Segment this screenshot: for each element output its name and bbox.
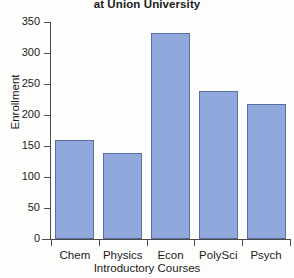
bar-polysci bbox=[199, 91, 238, 239]
chart-title: at Union University bbox=[0, 0, 294, 10]
y-tick-label: 50 bbox=[0, 202, 40, 213]
bar-chart: at Union University Enrollment 050100150… bbox=[0, 0, 294, 278]
y-tick-label: 350 bbox=[0, 16, 40, 27]
x-tick-mark bbox=[242, 239, 243, 246]
x-tick-label-physics: Physics bbox=[99, 249, 147, 261]
x-tick-label-polysci: PolySci bbox=[194, 249, 242, 261]
x-tick-label-econ: Econ bbox=[147, 249, 195, 261]
x-tick-mark bbox=[147, 239, 148, 246]
y-tick-mark bbox=[44, 84, 51, 85]
y-tick-mark bbox=[44, 53, 51, 54]
y-tick-label: 250 bbox=[0, 78, 40, 89]
y-tick-mark bbox=[44, 22, 51, 23]
y-tick-mark bbox=[44, 239, 51, 240]
x-tick-mark bbox=[194, 239, 195, 246]
x-tick-label-chem: Chem bbox=[51, 249, 99, 261]
y-tick-mark bbox=[44, 146, 51, 147]
x-tick-mark bbox=[51, 239, 52, 246]
y-tick-label: 150 bbox=[0, 140, 40, 151]
bar-econ bbox=[151, 33, 190, 239]
x-tick-mark bbox=[290, 239, 291, 246]
y-tick-mark bbox=[44, 177, 51, 178]
y-tick-label: 300 bbox=[0, 47, 40, 58]
x-tick-mark bbox=[99, 239, 100, 246]
y-tick-mark bbox=[44, 115, 51, 116]
y-tick-label: 0 bbox=[0, 233, 40, 244]
x-tick-label-psych: Psych bbox=[242, 249, 290, 261]
x-axis-title: Introductory Courses bbox=[0, 262, 294, 274]
y-tick-label: 100 bbox=[0, 171, 40, 182]
y-tick-mark bbox=[44, 208, 51, 209]
bar-chem bbox=[55, 140, 94, 239]
bar-physics bbox=[103, 153, 142, 239]
y-tick-label: 200 bbox=[0, 109, 40, 120]
bar-psych bbox=[247, 104, 286, 239]
x-axis-line bbox=[42, 239, 290, 240]
